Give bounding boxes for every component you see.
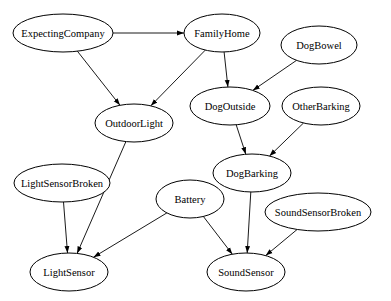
arrow-icon <box>266 230 297 256</box>
graph-canvas: ExpectingCompanyFamilyHomeDogBowelOutdoo… <box>0 0 391 301</box>
node-light-sensor: LightSensor <box>30 253 108 291</box>
node-label: DogOutside <box>205 101 256 112</box>
arrow-icon <box>64 202 68 253</box>
arrow-icon <box>253 60 297 90</box>
edge-other-barking-to-dog-barking <box>270 123 304 156</box>
node-family-home: FamilyHome <box>184 14 260 52</box>
arrow-icon <box>270 123 304 156</box>
node-label: SoundSensor <box>218 267 274 278</box>
arrow-icon <box>94 213 167 257</box>
node-dog-barking: DogBarking <box>213 154 291 192</box>
nodes-layer: ExpectingCompanyFamilyHomeDogBowelOutdoo… <box>13 14 371 291</box>
edge-light-sensor-broken-to-light-sensor <box>64 202 68 253</box>
node-label: OutdoorLight <box>105 118 163 129</box>
edge-dog-barking-to-sound-sensor <box>247 192 251 253</box>
arrow-icon <box>203 217 232 255</box>
node-dog-outside: DogOutside <box>190 87 270 125</box>
arrow-icon <box>247 192 251 253</box>
edge-expecting-company-to-outdoor-light <box>77 51 120 105</box>
node-label: OtherBarking <box>292 101 350 112</box>
node-battery: Battery <box>156 180 224 218</box>
node-sound-sensor: SoundSensor <box>207 253 285 291</box>
edges-layer <box>64 33 304 257</box>
node-label: Battery <box>175 194 207 205</box>
edge-family-home-to-dog-outside <box>224 52 228 87</box>
node-sound-sensor-broken: SoundSensorBroken <box>265 193 371 231</box>
node-label: FamilyHome <box>194 28 250 39</box>
bayesian-network-diagram: ExpectingCompanyFamilyHomeDogBowelOutdoo… <box>0 0 391 301</box>
node-label: SoundSensorBroken <box>275 207 362 218</box>
arrow-icon <box>224 52 228 87</box>
node-light-sensor-broken: LightSensorBroken <box>14 164 110 202</box>
edge-dog-bowel-to-dog-outside <box>253 60 297 90</box>
node-label: DogBarking <box>226 168 279 179</box>
node-dog-bowel: DogBowel <box>281 26 357 64</box>
arrow-icon <box>77 51 120 105</box>
edge-battery-to-sound-sensor <box>203 217 232 255</box>
arrow-icon <box>236 125 246 154</box>
node-outdoor-light: OutdoorLight <box>95 104 173 142</box>
edge-sound-sensor-broken-to-sound-sensor <box>266 230 297 256</box>
node-label: ExpectingCompany <box>21 28 105 39</box>
node-label: LightSensor <box>43 267 95 278</box>
node-label: DogBowel <box>296 40 342 51</box>
node-label: LightSensorBroken <box>21 178 104 189</box>
node-expecting-company: ExpectingCompany <box>13 14 113 52</box>
edge-dog-outside-to-dog-barking <box>236 125 246 154</box>
edge-battery-to-light-sensor <box>94 213 167 257</box>
node-other-barking: OtherBarking <box>282 87 360 125</box>
